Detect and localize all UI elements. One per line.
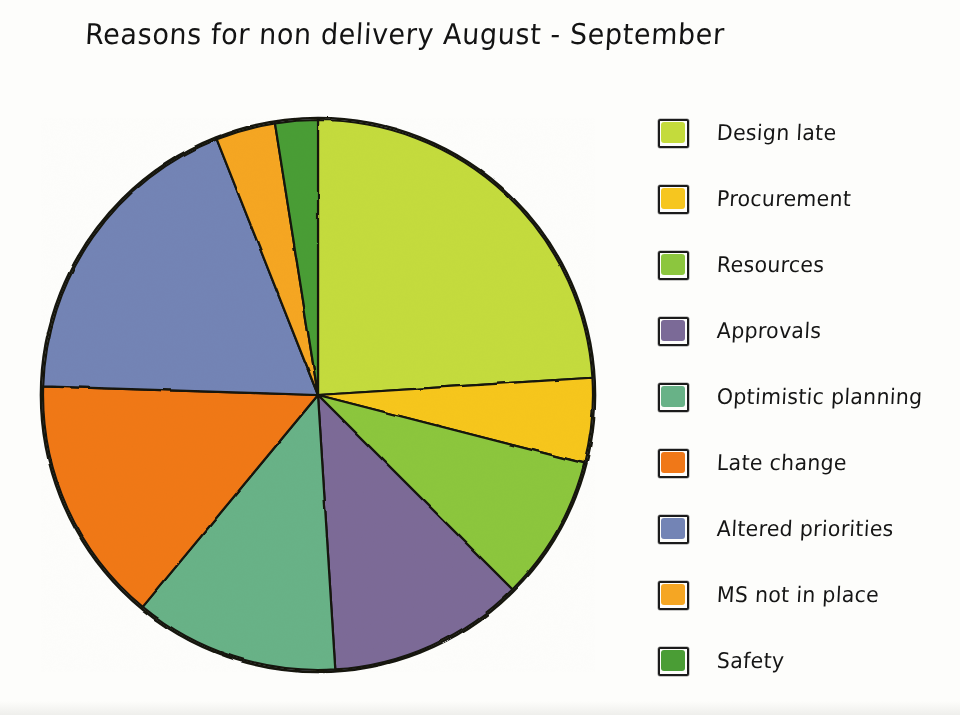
pie-chart	[30, 92, 610, 702]
pie-slices-group	[43, 120, 593, 670]
legend-item-label: Resources	[716, 252, 825, 277]
page-title: Reasons for non delivery August - Septem…	[0, 17, 811, 50]
legend-item[interactable]: Procurement	[658, 166, 958, 232]
legend-swatch-fill	[661, 122, 685, 143]
paper-edge	[0, 701, 960, 715]
legend-item[interactable]: Late change	[658, 430, 958, 496]
legend-swatch-icon	[658, 119, 689, 148]
legend-swatch-fill	[661, 452, 685, 473]
legend-item-label: Safety	[716, 648, 785, 673]
legend-item[interactable]: Approvals	[658, 298, 958, 364]
legend-item-label: Late change	[716, 450, 847, 475]
legend-swatch-icon	[658, 185, 689, 214]
legend-swatch-icon	[658, 383, 689, 412]
legend-swatch-fill	[661, 254, 685, 275]
legend-item-label: Procurement	[716, 186, 852, 211]
legend-item[interactable]: Altered priorities	[658, 496, 958, 562]
legend-swatch-fill	[661, 188, 685, 209]
legend-swatch-fill	[661, 320, 685, 341]
legend-swatch-fill	[661, 518, 685, 539]
legend-item[interactable]: Resources	[658, 232, 958, 298]
legend-swatch-fill	[661, 386, 685, 407]
legend-swatch-icon	[658, 515, 689, 544]
legend-item-label: Approvals	[716, 318, 822, 343]
legend-item[interactable]: Design late	[658, 100, 958, 166]
legend-swatch-icon	[658, 581, 689, 610]
legend-item-label: Design late	[716, 120, 837, 145]
legend: Design lateProcurementResourcesApprovals…	[658, 100, 958, 694]
legend-item-label: Altered priorities	[716, 516, 894, 541]
legend-swatch-fill	[661, 650, 685, 671]
legend-swatch-icon	[658, 449, 689, 478]
legend-swatch-icon	[658, 647, 689, 676]
legend-swatch-icon	[658, 251, 689, 280]
legend-swatch-fill	[661, 584, 685, 605]
chart-page: Reasons for non delivery August - Septem…	[0, 0, 960, 715]
legend-item[interactable]: Safety	[658, 628, 958, 694]
legend-item[interactable]: Optimistic planning	[658, 364, 958, 430]
pie-chart-svg	[30, 92, 610, 702]
pie-slice[interactable]	[318, 120, 592, 395]
legend-item[interactable]: MS not in place	[658, 562, 958, 628]
legend-swatch-icon	[658, 317, 689, 346]
legend-item-label: Optimistic planning	[716, 384, 923, 409]
legend-item-label: MS not in place	[716, 582, 879, 607]
